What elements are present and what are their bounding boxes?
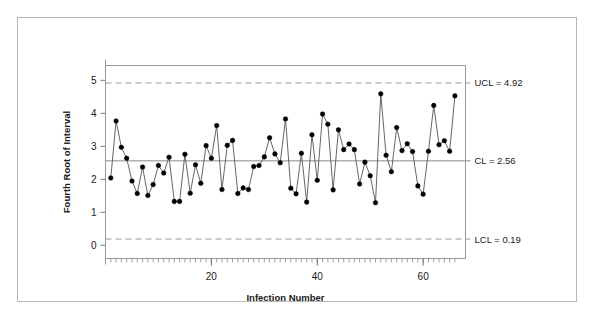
data-point [209, 156, 214, 161]
data-point [384, 153, 389, 158]
data-point [363, 160, 368, 165]
data-point [273, 152, 278, 157]
y-tick-label: 1 [91, 207, 97, 218]
y-axis: 012345 [91, 60, 106, 265]
data-point [389, 169, 394, 174]
data-point [204, 143, 209, 148]
data-point [108, 176, 113, 181]
series-markers [108, 92, 457, 205]
chart-plot-area: 012345204060UCL = 4.92CL = 2.56LCL = 0.1… [0, 0, 593, 324]
data-point [288, 186, 293, 191]
x-tick-label: 40 [312, 271, 324, 282]
data-point [331, 188, 336, 193]
data-point [326, 122, 331, 127]
data-point [431, 103, 436, 108]
data-point [453, 94, 458, 99]
data-point [437, 142, 442, 147]
data-point [299, 151, 304, 156]
data-point [140, 165, 145, 170]
chart-svg: 012345204060UCL = 4.92CL = 2.56LCL = 0.1… [0, 0, 593, 324]
data-point [421, 192, 426, 197]
data-point [161, 171, 166, 176]
y-axis-title: Fourth Root of Interval [61, 111, 72, 213]
data-point [304, 200, 309, 205]
data-point [315, 178, 320, 183]
x-tick-label: 60 [418, 271, 430, 282]
x-axis-title: Infection Number [246, 292, 324, 303]
data-point [310, 132, 315, 137]
data-point [426, 149, 431, 154]
control-chart-figure: 012345204060UCL = 4.92CL = 2.56LCL = 0.1… [0, 0, 593, 324]
data-point [405, 141, 410, 146]
data-point [172, 199, 177, 204]
data-point [193, 163, 198, 168]
x-tick-label: 20 [206, 271, 218, 282]
plot-frame [106, 66, 466, 259]
plot-frame-rect [106, 66, 466, 259]
control-limit-lines [106, 83, 466, 239]
data-point [400, 148, 405, 153]
data-point [198, 181, 203, 186]
limit-label-ucl: UCL = 4.92 [475, 77, 523, 88]
data-point [341, 147, 346, 152]
data-point [146, 193, 151, 198]
data-point [151, 182, 156, 187]
y-tick-label: 5 [91, 75, 97, 86]
data-point [368, 173, 373, 178]
data-point [352, 147, 357, 152]
data-point [357, 182, 362, 187]
data-point [220, 187, 225, 192]
data-point [442, 138, 447, 143]
data-point [124, 156, 129, 161]
data-point [278, 161, 283, 166]
x-axis: 204060 [111, 259, 455, 282]
y-tick-label: 2 [91, 174, 97, 185]
data-point [246, 187, 251, 192]
data-point [188, 191, 193, 196]
data-point [294, 192, 299, 197]
data-point [251, 164, 256, 169]
data-point [416, 184, 421, 189]
data-point [214, 123, 219, 128]
limit-annotations: UCL = 4.92CL = 2.56LCL = 0.19 [466, 77, 523, 244]
data-point [119, 145, 124, 150]
data-point [262, 155, 267, 160]
data-point [183, 152, 188, 157]
y-tick-label: 3 [91, 141, 97, 152]
data-point [283, 117, 288, 122]
data-point [225, 143, 230, 148]
data-point [378, 92, 383, 97]
data-point [410, 149, 415, 154]
data-point [241, 186, 246, 191]
data-point [394, 125, 399, 130]
limit-label-lcl: LCL = 0.19 [475, 234, 521, 245]
data-point [236, 191, 241, 196]
data-point [347, 142, 352, 147]
data-point [336, 128, 341, 133]
data-point [257, 163, 262, 168]
data-point [156, 163, 161, 168]
data-point [267, 135, 272, 140]
data-point [114, 119, 119, 124]
series-line [111, 94, 455, 203]
data-point [177, 199, 182, 204]
limit-label-cl: CL = 2.56 [475, 155, 516, 166]
data-point [130, 179, 135, 184]
data-point [320, 112, 325, 117]
data-point [447, 149, 452, 154]
y-tick-label: 4 [91, 108, 97, 119]
data-point [135, 191, 140, 196]
data-point [167, 155, 172, 160]
data-point [373, 200, 378, 205]
data-point [230, 138, 235, 143]
y-tick-label: 0 [91, 240, 97, 251]
